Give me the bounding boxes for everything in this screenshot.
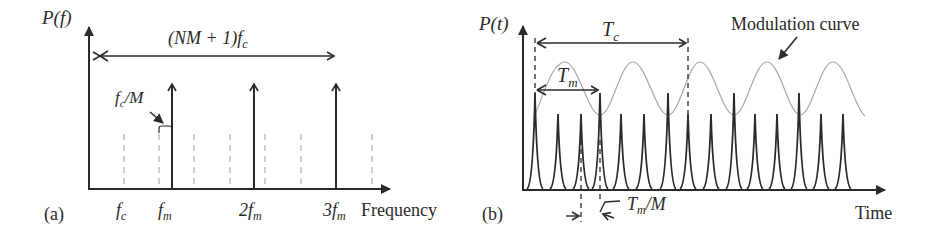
shift-label: Tm/M — [627, 194, 667, 217]
shift-arrow-right — [603, 214, 614, 218]
x-axis-label: Frequency — [361, 200, 437, 220]
y-axis-label: P(f) — [41, 7, 72, 29]
y-axis-label: P(t) — [478, 13, 509, 35]
x-axis-label: Time — [855, 203, 892, 223]
shift-pointer — [600, 201, 620, 212]
span-label: (NM + 1)fc — [168, 28, 248, 51]
tc-label: Tc — [602, 18, 619, 44]
tick-2fm: 2fm — [239, 200, 262, 223]
panel-b-time: P(t) Tc Tm Modulation curve Tm/M Time (b… — [478, 13, 892, 225]
tm-label: Tm — [557, 64, 578, 90]
figure: P(f) (NM + 1)fc fc/M fc fm 2fm 3fm Frequ… — [0, 0, 938, 240]
modulation-curve — [535, 62, 865, 116]
tick-3fm: 3fm — [322, 200, 346, 223]
tick-fc: fc — [116, 200, 127, 223]
comb-lines — [124, 134, 372, 188]
spacing-brace — [159, 126, 172, 133]
panel-tag-b: (b) — [482, 204, 503, 225]
spacing-pointer — [150, 112, 163, 123]
curve-label: Modulation curve — [731, 14, 859, 34]
curve-pointer — [779, 37, 797, 59]
panel-tag-a: (a) — [44, 204, 64, 225]
tick-fm: fm — [158, 200, 172, 223]
pulse-train — [527, 93, 851, 189]
spacing-label: fc/M — [115, 88, 144, 109]
panel-a-spectrum: P(f) (NM + 1)fc fc/M fc fm 2fm 3fm Frequ… — [41, 7, 437, 225]
